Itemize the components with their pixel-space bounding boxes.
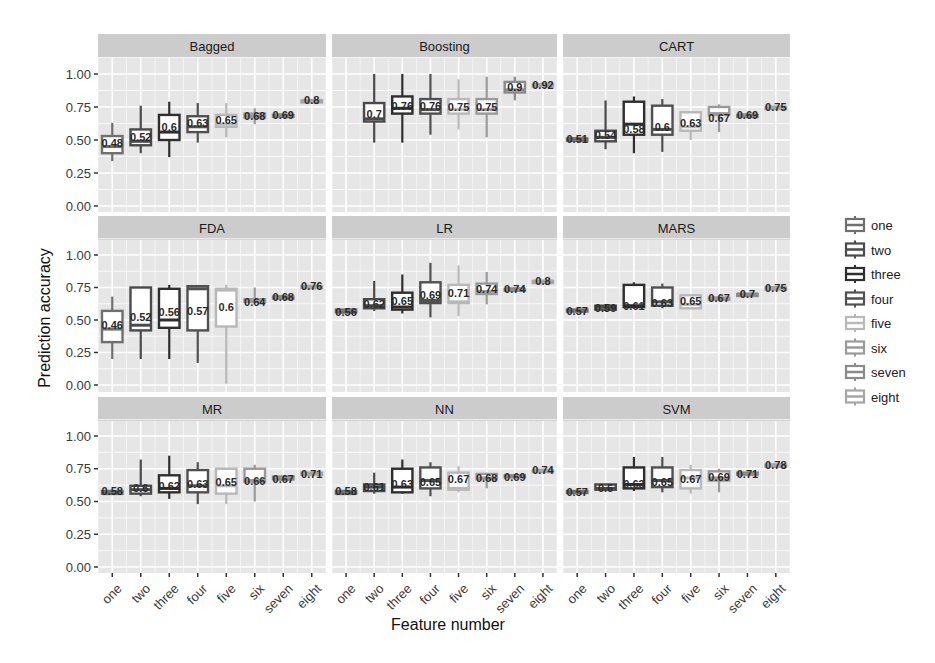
value-label: 0.75 <box>765 101 786 113</box>
value-label: 0.65 <box>392 295 413 307</box>
y-tick-label: 0.25 <box>66 345 91 360</box>
legend-label: six <box>871 341 887 356</box>
value-label: 0.52 <box>130 131 151 143</box>
value-label: 0.62 <box>159 480 180 492</box>
x-tick-label: eight <box>294 581 325 612</box>
panel-nn: NN0.580.610.630.650.670.680.690.74 <box>332 397 557 583</box>
value-label: 0.7 <box>367 108 382 120</box>
x-tick-label: six <box>245 581 267 603</box>
panel-lr: LR0.560.620.650.690.710.740.740.8 <box>332 216 557 401</box>
value-label: 0.64 <box>244 296 266 308</box>
panels-layer: Bagged0.480.520.60.630.650.680.690.8Boos… <box>98 34 790 583</box>
value-label: 0.75 <box>765 282 786 294</box>
value-label: 0.63 <box>623 478 644 490</box>
y-tick-label: 0.00 <box>66 378 91 393</box>
panel-title: Bagged <box>190 39 235 54</box>
value-label: 0.67 <box>708 112 729 124</box>
x-tick-label: three <box>383 581 415 613</box>
legend-label: eight <box>871 390 900 405</box>
legend-label: three <box>871 267 901 282</box>
x-tick-label: four <box>184 580 211 607</box>
x-tick-label: six <box>710 581 732 603</box>
legend-item-eight: eight <box>846 388 900 406</box>
value-label: 0.61 <box>623 300 644 312</box>
value-label: 0.75 <box>476 101 497 113</box>
value-label: 0.6 <box>598 482 613 494</box>
value-label: 0.92 <box>532 79 553 91</box>
y-tick-label: 1.00 <box>66 429 91 444</box>
x-tick-label: four <box>648 580 675 607</box>
legend-label: two <box>871 243 891 258</box>
x-tick-label: one <box>564 581 590 607</box>
value-label: 0.69 <box>504 471 525 483</box>
legend-item-three: three <box>846 265 901 283</box>
value-label: 0.63 <box>187 478 208 490</box>
value-label: 0.58 <box>102 485 123 497</box>
value-label: 0.46 <box>102 319 123 331</box>
value-label: 0.65 <box>680 295 701 307</box>
y-tick-label: 0.00 <box>66 199 91 214</box>
value-label: 0.69 <box>708 471 729 483</box>
value-label: 0.63 <box>680 117 701 129</box>
legend-item-two: two <box>846 241 891 259</box>
panel-mars: MARS0.570.590.610.630.650.670.70.75 <box>563 216 790 401</box>
y-tick-label: 0.75 <box>66 100 91 115</box>
legend-label: four <box>871 292 894 307</box>
panel-fda: FDA0.460.520.560.570.60.640.680.76 <box>98 216 326 401</box>
value-label: 0.52 <box>130 311 151 323</box>
panel-title: SVM <box>662 402 690 417</box>
value-label: 0.6 <box>162 121 177 133</box>
value-label: 0.6 <box>655 121 670 133</box>
value-label: 0.69 <box>420 289 441 301</box>
value-label: 0.67 <box>680 473 701 485</box>
panel-title: MR <box>202 402 222 417</box>
legend-item-six: six <box>846 339 887 357</box>
y-tick-label: 0.75 <box>66 461 91 476</box>
panel-cart: CART0.510.540.580.60.630.670.690.75 <box>563 34 790 223</box>
value-label: 0.68 <box>476 472 497 484</box>
value-label: 0.57 <box>566 486 587 498</box>
y-axis-title: Prediction accuracy <box>36 248 53 388</box>
value-label: 0.65 <box>420 476 441 488</box>
value-label: 0.65 <box>216 476 237 488</box>
x-tick-label: five <box>446 581 471 606</box>
value-label: 0.71 <box>737 468 758 480</box>
value-label: 0.71 <box>301 468 322 480</box>
y-tick-label: 0.25 <box>66 166 91 181</box>
value-label: 0.68 <box>273 291 294 303</box>
value-label: 0.74 <box>476 283 498 295</box>
y-tick-label: 0.00 <box>66 560 91 575</box>
value-label: 0.65 <box>216 114 237 126</box>
value-label: 0.59 <box>595 302 616 314</box>
y-tick-label: 0.50 <box>66 133 91 148</box>
x-tick-label: seven <box>725 581 760 616</box>
x-tick-label: one <box>99 581 125 607</box>
value-label: 0.67 <box>448 473 469 485</box>
value-label: 0.56 <box>335 306 356 318</box>
value-label: 0.63 <box>187 117 208 129</box>
y-tick-label: 1.00 <box>66 248 91 263</box>
panel-title: Boosting <box>419 39 470 54</box>
panel-bagged: Bagged0.480.520.60.630.650.680.690.8 <box>98 34 326 223</box>
value-label: 0.66 <box>244 475 265 487</box>
faceted-boxplot-chart: Bagged0.480.520.60.630.650.680.690.8Boos… <box>0 0 935 663</box>
x-axis-title: Feature number <box>391 616 506 633</box>
value-label: 0.76 <box>392 100 413 112</box>
value-label: 0.54 <box>595 129 617 141</box>
value-label: 0.8 <box>535 275 550 287</box>
value-label: 0.61 <box>363 481 384 493</box>
value-label: 0.75 <box>448 101 469 113</box>
value-label: 0.56 <box>159 306 180 318</box>
value-label: 0.76 <box>301 280 322 292</box>
value-label: 0.58 <box>335 485 356 497</box>
y-tick-label: 0.25 <box>66 527 91 542</box>
value-label: 0.78 <box>765 459 786 471</box>
value-label: 0.67 <box>708 292 729 304</box>
y-tick-label: 0.50 <box>66 494 91 509</box>
legend-item-five: five <box>846 314 891 332</box>
panel-title: CART <box>659 39 694 54</box>
y-tick-label: 0.50 <box>66 313 91 328</box>
x-tick-label: five <box>678 581 703 606</box>
value-label: 0.58 <box>623 123 644 135</box>
chart-canvas: Bagged0.480.520.60.630.650.680.690.8Boos… <box>0 0 935 663</box>
